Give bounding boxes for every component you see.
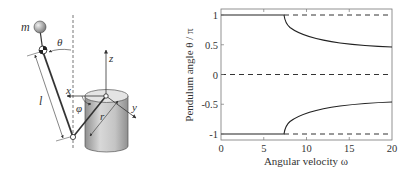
x-tick-label: 10 — [301, 143, 312, 154]
figure: z x y r φ l θ m — [0, 0, 412, 173]
y-tick-label: 0.5 — [205, 40, 218, 51]
z-axis-label: z — [108, 52, 114, 64]
x-tick-label: 0 — [218, 143, 223, 154]
theta-label: θ — [57, 36, 63, 48]
theta-angle-arc — [49, 49, 71, 52]
x-tick-labels: 0 5 10 15 20 — [218, 143, 397, 154]
radius-label: r — [100, 110, 105, 122]
lower-pivot — [70, 134, 75, 139]
cylinder — [85, 90, 128, 153]
phi-label: φ — [76, 102, 82, 114]
x-tick-label: 20 — [387, 143, 398, 154]
x-tick-label: 15 — [344, 143, 355, 154]
mass-ball — [34, 21, 46, 33]
lower-branch-curve — [221, 102, 392, 134]
y-tick-label: -0.5 — [201, 99, 218, 110]
length-label: l — [39, 94, 43, 108]
y-tick-label: 1 — [213, 10, 218, 21]
y-axis-label: y — [131, 101, 137, 113]
mass-label: m — [21, 20, 30, 34]
x-axis-title: Angular velocity ω — [264, 155, 348, 167]
y-tick-label: -1 — [209, 129, 218, 140]
x-tick-label: 5 — [261, 143, 266, 154]
y-tick-labels: 1 0.5 0 -0.5 -1 — [201, 10, 218, 140]
bifurcation-chart: 1 0.5 0 -0.5 -1 0 5 10 15 20 Angular vel… — [183, 9, 397, 167]
y-axis-title: Pendulum angle θ / π — [183, 28, 195, 122]
center-pivot — [104, 94, 108, 98]
x-axis-label: x — [65, 84, 71, 96]
hinge-joint — [39, 46, 47, 54]
y-tick-label: 0 — [213, 70, 218, 81]
upper-branch-curve — [221, 15, 392, 47]
pendulum-diagram: z x y r φ l θ m — [21, 15, 137, 152]
